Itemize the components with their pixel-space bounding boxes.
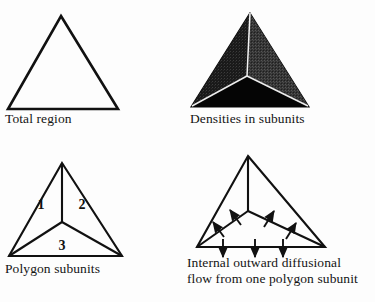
panel-internal-outward-diffusional-flow: Internal outward diffusionalflow from on… — [185, 151, 375, 302]
caption-densities-in-subunits: Densities in subunits — [190, 111, 305, 127]
polygon-subunits-diagram: 1 2 3 — [0, 151, 185, 271]
densities-diagram — [185, 0, 375, 120]
panel-polygon-subunits: 1 2 3 Polygon subunits — [0, 151, 185, 302]
subunit-label-1: 1 — [38, 197, 45, 212]
panel-densities-in-subunits: Densities in subunits — [185, 0, 375, 151]
subunits-outline-triangle — [9, 163, 122, 256]
panel-total-region: Total region — [0, 0, 185, 151]
figure-panel-grid: Total region — [0, 0, 375, 302]
diffusion-divider-right — [248, 211, 325, 247]
total-region-diagram — [0, 0, 185, 120]
subunit-label-2: 2 — [79, 197, 86, 212]
caption-diffusion-line-1: Internal outward diffusional — [187, 255, 341, 270]
caption-total-region: Total region — [5, 111, 72, 127]
subunit-label-3: 3 — [59, 238, 66, 253]
caption-internal-outward-diffusional-flow: Internal outward diffusionalflow from on… — [187, 255, 358, 286]
subunits-divider-left — [9, 222, 62, 256]
diffusional-flow-diagram — [185, 151, 375, 261]
outline-triangle-shape — [8, 16, 118, 109]
subunits-divider-right — [62, 222, 122, 256]
caption-polygon-subunits: Polygon subunits — [5, 261, 100, 277]
flow-arrow-right-2 — [286, 223, 296, 239]
caption-diffusion-line-2: flow from one polygon subunit — [187, 271, 358, 286]
